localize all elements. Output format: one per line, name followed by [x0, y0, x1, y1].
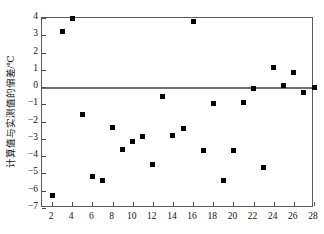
x-tick-label: 8 [102, 211, 122, 221]
x-tick [254, 202, 255, 206]
x-tick [274, 202, 275, 206]
y-tick-label: −5 [18, 166, 38, 176]
y-tick [42, 18, 46, 19]
data-point [271, 65, 276, 70]
x-tick-label: 12 [142, 211, 162, 221]
data-point [221, 178, 226, 183]
y-tick-label: 2 [18, 46, 38, 56]
y-tick-label: −7 [18, 201, 38, 211]
data-point [120, 147, 125, 152]
x-tick [294, 202, 295, 206]
x-tick-label: 6 [81, 211, 101, 221]
y-tick-label: −1 [18, 97, 38, 107]
data-point [160, 94, 165, 99]
x-tick-label: 14 [162, 211, 182, 221]
x-tick-label: 18 [202, 211, 222, 221]
y-tick [42, 87, 46, 88]
y-tick-label: 0 [18, 80, 38, 90]
y-tick [42, 191, 46, 192]
plot-area [41, 17, 313, 207]
x-tick-label: 24 [263, 211, 283, 221]
y-tick-label: 3 [18, 28, 38, 38]
y-tick [42, 173, 46, 174]
x-tick-label: 4 [61, 211, 81, 221]
x-tick [153, 202, 154, 206]
x-tick [193, 202, 194, 206]
data-point [201, 148, 206, 153]
x-tick-label: 2 [41, 211, 61, 221]
x-tick [173, 202, 174, 206]
y-tick [42, 208, 46, 209]
x-tick [133, 202, 134, 206]
x-tick-label: 10 [122, 211, 142, 221]
y-tick-label: −3 [18, 132, 38, 142]
data-point [100, 178, 105, 183]
y-axis-title-text: 计算值与实测值的偏差/℃ [7, 55, 17, 168]
data-point [130, 139, 135, 144]
scatter-chart-figure: 计算值与实测值的偏差/℃ 43210−1−2−3−4−5−6−7 2468101… [0, 0, 324, 234]
y-tick [42, 156, 46, 157]
data-point [50, 193, 55, 198]
data-point [301, 90, 306, 95]
data-point [80, 112, 85, 117]
data-point [110, 125, 115, 130]
y-tick-label: −2 [18, 115, 38, 125]
data-point [211, 101, 216, 106]
x-tick [92, 202, 93, 206]
data-point [251, 86, 256, 91]
x-tick-label: 26 [283, 211, 303, 221]
data-point [261, 165, 266, 170]
y-tick-label: 4 [18, 11, 38, 21]
data-point [170, 133, 175, 138]
data-point [241, 100, 246, 105]
data-point [150, 162, 155, 167]
x-tick-label: 16 [182, 211, 202, 221]
y-tick-label: −6 [18, 184, 38, 194]
data-point [90, 174, 95, 179]
x-tick [113, 202, 114, 206]
y-tick [42, 104, 46, 105]
data-point [312, 85, 317, 90]
x-tick-label: 28 [303, 211, 323, 221]
data-point [70, 16, 75, 21]
y-tick [42, 53, 46, 54]
x-tick [72, 202, 73, 206]
y-tick [42, 139, 46, 140]
data-point [191, 19, 196, 24]
data-point [181, 126, 186, 131]
data-point [140, 134, 145, 139]
x-tick-label: 22 [243, 211, 263, 221]
x-tick [314, 202, 315, 206]
x-tick [213, 202, 214, 206]
data-point [291, 70, 296, 75]
data-point [281, 83, 286, 88]
x-tick [233, 202, 234, 206]
zero-reference-line [42, 87, 312, 89]
x-tick-label: 20 [222, 211, 242, 221]
data-point [231, 148, 236, 153]
y-tick-label: 1 [18, 63, 38, 73]
y-tick-label: −4 [18, 149, 38, 159]
y-tick [42, 122, 46, 123]
data-point [60, 29, 65, 34]
x-tick [52, 202, 53, 206]
y-tick [42, 70, 46, 71]
y-tick [42, 35, 46, 36]
